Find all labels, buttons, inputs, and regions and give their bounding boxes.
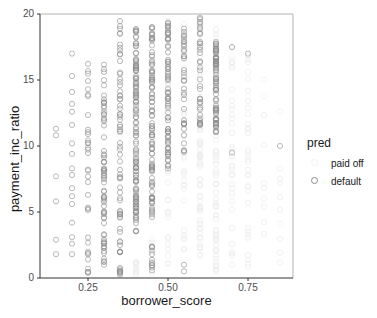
legend-key-paid-off-icon <box>307 155 323 171</box>
x-tick-label: 0.25 <box>68 282 108 293</box>
legend-label: default <box>331 176 361 187</box>
legend-label: paid off <box>331 158 364 169</box>
series-paid-off-points <box>133 18 282 277</box>
legend-key-default-icon <box>307 173 323 189</box>
legend-item-default: default <box>307 172 364 190</box>
x-tick-label: 0.50 <box>148 282 188 293</box>
legend-title: pred <box>307 136 364 150</box>
y-tick-label: 15 <box>14 74 34 85</box>
plot-axes <box>37 14 293 281</box>
y-tick-label: 20 <box>14 8 34 19</box>
y-tick-label: 5 <box>14 206 34 217</box>
legend: pred paid off default <box>307 136 364 190</box>
y-tick-label: 10 <box>14 140 34 151</box>
y-tick-label: 0 <box>14 272 34 283</box>
x-axis-label: borrower_score <box>40 293 293 308</box>
legend-item-paid-off: paid off <box>307 154 364 172</box>
x-tick-label: 0.75 <box>228 282 268 293</box>
y-axis-label-text: payment_inc_ratio <box>7 106 22 212</box>
series-default-points <box>53 15 282 277</box>
